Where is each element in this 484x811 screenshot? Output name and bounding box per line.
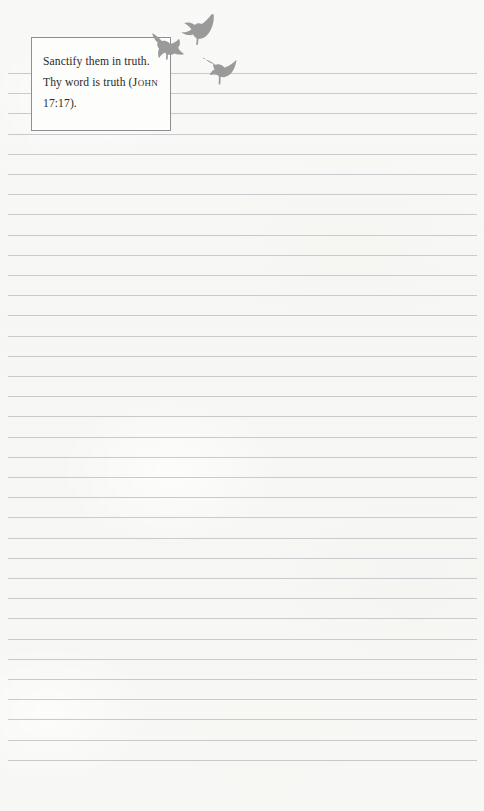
ruled-line — [8, 416, 477, 417]
ruled-line — [8, 437, 477, 438]
ruled-line — [8, 356, 477, 357]
ruled-line — [8, 336, 477, 337]
ruled-line — [8, 255, 477, 256]
ruled-line — [8, 134, 477, 135]
ruled-line — [8, 457, 477, 458]
quote-reference-book: John — [133, 75, 159, 89]
ruled-line — [8, 699, 477, 700]
ruled-line — [8, 154, 477, 155]
scripture-quote-text: Sanctify them in truth. Thy word is trut… — [43, 51, 161, 114]
bird-icon-lower — [202, 52, 240, 86]
ruled-line — [8, 396, 477, 397]
ruled-line — [8, 214, 477, 215]
bird-icon-left-of-box — [150, 31, 184, 61]
quote-line-3-suffix: 17:17). — [43, 97, 77, 110]
notebook-page: Sanctify them in truth. Thy word is trut… — [0, 0, 484, 811]
ruled-line — [8, 618, 477, 619]
bird-icon-upper-right — [181, 13, 219, 45]
ruled-line — [8, 639, 477, 640]
ruled-line — [8, 517, 477, 518]
ruled-line — [8, 235, 477, 236]
ruled-line — [8, 376, 477, 377]
ruled-line — [8, 760, 477, 761]
quote-line-3-prefix: truth ( — [103, 76, 132, 89]
ruled-line — [8, 295, 477, 296]
ruled-line — [8, 174, 477, 175]
quote-line-1: Sanctify them in — [43, 55, 121, 68]
ruled-line — [8, 477, 477, 478]
ruled-line — [8, 315, 477, 316]
ruled-line — [8, 497, 477, 498]
ruled-line — [8, 538, 477, 539]
ruled-line — [8, 740, 477, 741]
ruled-line — [8, 578, 477, 579]
ruled-line — [8, 719, 477, 720]
ruled-line — [8, 659, 477, 660]
ruled-line — [8, 598, 477, 599]
ruled-line — [8, 558, 477, 559]
ruled-line — [8, 679, 477, 680]
ruled-line — [8, 194, 477, 195]
ruled-line — [8, 275, 477, 276]
